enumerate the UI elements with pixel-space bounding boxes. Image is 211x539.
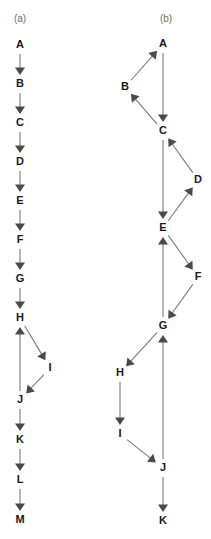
node-a-F: F: [17, 233, 24, 245]
node-a-H: H: [16, 311, 24, 323]
arrowhead-a-C-D: [15, 146, 25, 154]
arrowhead-b-A-C: [158, 115, 168, 123]
arrowhead-a-L-M: [15, 504, 25, 512]
node-a-M: M: [15, 513, 24, 525]
edge-b-B-A: [131, 55, 154, 80]
node-a-B: B: [16, 77, 24, 89]
node-a-G: G: [16, 272, 25, 284]
arrowhead-a-G-H: [15, 302, 25, 310]
node-b-G: G: [159, 319, 168, 331]
node-b-K: K: [159, 514, 167, 526]
node-b-H: H: [116, 366, 124, 378]
arrowhead-b-H-I: [115, 418, 125, 426]
node-a-E: E: [16, 194, 23, 206]
arrowhead-b-J-G: [158, 335, 168, 343]
edge-b-I-J: [127, 440, 152, 459]
arrowhead-b-E-D: [184, 187, 192, 196]
node-b-E: E: [159, 221, 166, 233]
graph-diagram: ABCDEFGHIJKLM(a)ABCDEFGHIJK(b): [0, 0, 211, 539]
node-b-C: C: [159, 124, 167, 136]
arrowhead-a-D-E: [15, 185, 25, 193]
arrowhead-a-K-L: [15, 464, 25, 472]
edge-b-G-H: [130, 333, 157, 363]
node-b-F: F: [195, 270, 202, 282]
node-b-I: I: [118, 427, 121, 439]
arrowhead-a-F-G: [15, 263, 25, 271]
panel-b-edges: [115, 51, 193, 512]
panel-b: ABCDEFGHIJK(b): [115, 13, 202, 526]
arrowhead-b-J-K: [158, 505, 168, 513]
arrowhead-a-H-I: [37, 351, 46, 360]
panel-label-a: (a): [14, 13, 26, 24]
node-a-I: I: [48, 361, 51, 373]
node-a-J: J: [17, 393, 23, 405]
node-a-A: A: [16, 38, 24, 50]
arrowhead-a-E-F: [15, 224, 25, 232]
edge-b-E-F: [168, 235, 189, 265]
panel-label-b: (b): [160, 13, 172, 24]
arrowhead-b-C-E: [158, 212, 168, 220]
node-a-D: D: [16, 155, 24, 167]
arrowhead-a-B-C: [15, 107, 25, 115]
arrowhead-a-J-K: [15, 424, 25, 432]
arrowhead-a-J-H: [15, 327, 25, 335]
node-a-C: C: [16, 116, 24, 128]
arrowhead-b-D-C: [168, 138, 176, 147]
arrowhead-b-C-B: [131, 94, 140, 103]
edge-a-H-I: [25, 326, 43, 356]
arrowhead-a-A-B: [15, 68, 25, 76]
edge-b-D-C: [171, 143, 192, 173]
edge-b-C-B: [134, 98, 157, 124]
arrowhead-b-F-G: [168, 310, 176, 319]
edge-b-E-D: [168, 192, 189, 221]
figure-container: ABCDEFGHIJKLM(a)ABCDEFGHIJK(b): [0, 0, 211, 539]
edge-b-F-G: [171, 284, 192, 314]
edge-a-I-J: [30, 375, 44, 390]
node-b-D: D: [194, 173, 202, 185]
node-b-B: B: [121, 80, 129, 92]
node-b-J: J: [160, 461, 166, 473]
node-b-A: A: [159, 37, 167, 49]
panel-a: ABCDEFGHIJKLM(a): [14, 13, 52, 525]
arrowhead-b-G-E: [158, 237, 168, 245]
panel-b-nodes: ABCDEFGHIJK: [116, 37, 202, 526]
arrowhead-b-E-F: [184, 261, 192, 270]
arrowhead-b-I-J: [147, 454, 156, 463]
node-a-L: L: [17, 473, 24, 485]
node-a-K: K: [16, 433, 24, 445]
